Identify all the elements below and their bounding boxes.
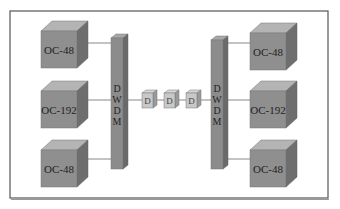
- left-node-1: OC-48: [41, 21, 88, 68]
- amplifier-2: D: [164, 90, 179, 108]
- node-label: OC-48: [253, 46, 283, 58]
- node-label: OC-48: [253, 163, 283, 175]
- right-dwdm-mux: D W D M: [211, 36, 228, 169]
- node-label: OC-48: [44, 44, 74, 56]
- amplifier-icon: D: [144, 96, 151, 106]
- right-node-3: OC-48: [250, 140, 297, 187]
- left-dwdm-mux: D W D M: [111, 34, 128, 169]
- node-label: OC-48: [44, 163, 74, 175]
- mux-letter: D: [213, 83, 220, 94]
- right-node-2: OC-192: [250, 81, 297, 128]
- left-node-3: OC-48: [41, 140, 88, 187]
- mux-letter: M: [113, 116, 122, 127]
- node-label: OC-192: [41, 104, 76, 116]
- mux-letter: M: [213, 116, 222, 127]
- mux-letter: W: [212, 94, 222, 105]
- right-node-1: OC-48: [250, 23, 297, 70]
- amplifier-icon: D: [166, 96, 173, 106]
- mux-letter: D: [113, 105, 120, 116]
- amplifier-icon: D: [188, 96, 195, 106]
- mux-letter: W: [112, 94, 122, 105]
- mux-letter: D: [213, 105, 220, 116]
- node-label: OC-192: [250, 104, 285, 116]
- amplifier-3: D: [186, 90, 201, 108]
- dwdm-diagram: OC-48 OC-192 OC-48 OC-48 OC-192 OC-48 D: [0, 0, 340, 209]
- mux-letter: D: [113, 83, 120, 94]
- left-node-2: OC-192: [41, 81, 88, 128]
- amplifier-1: D: [142, 90, 157, 108]
